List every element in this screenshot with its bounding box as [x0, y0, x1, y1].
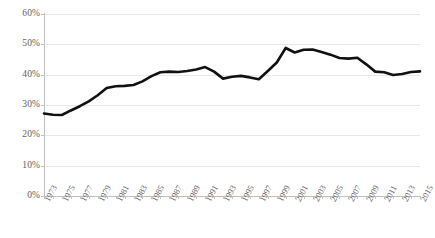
series-line-1 — [44, 48, 420, 115]
